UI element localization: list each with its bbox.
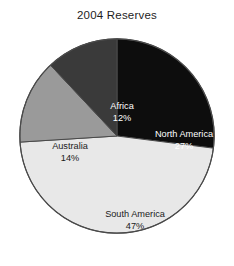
pie-svg — [18, 37, 216, 235]
pie-slice — [20, 136, 213, 233]
pie-chart-figure: 2004 Reserves North America 27% South Am… — [0, 0, 234, 266]
pie-slice-group — [20, 39, 214, 233]
pie-slice — [117, 39, 214, 148]
chart-title: 2004 Reserves — [0, 9, 234, 21]
pie-chart-area: North America 27% South America 47% Aust… — [18, 37, 216, 235]
